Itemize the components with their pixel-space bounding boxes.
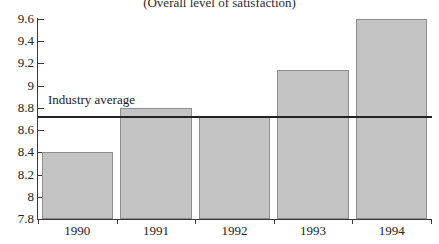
x-axis-tick-mark <box>117 219 118 224</box>
y-axis-tick-label: 8.8 <box>18 101 34 114</box>
x-axis-tick-mark <box>352 219 353 224</box>
bar <box>356 19 428 219</box>
x-axis-tick-label: 1992 <box>195 224 274 238</box>
industry-average-label: Industry average <box>48 93 135 107</box>
bar <box>199 117 271 219</box>
bar-chart: (Overall level of satisfaction) 9.69.49.… <box>0 0 439 244</box>
industry-average-line <box>38 116 432 118</box>
x-axis-line <box>37 219 432 220</box>
x-axis-tick-mark <box>431 219 432 224</box>
bar <box>42 152 114 219</box>
y-axis-tick-label: 8.6 <box>18 123 34 136</box>
y-axis-tick-label: 9.2 <box>18 56 34 69</box>
bar-series <box>38 19 431 219</box>
bar <box>277 70 349 219</box>
x-axis-tick-label: 1993 <box>274 224 353 238</box>
y-axis-tick-label: 7.8 <box>18 212 34 225</box>
y-axis-tick-label: 9 <box>28 79 35 92</box>
x-axis-tick-label: 1994 <box>352 224 431 238</box>
x-axis-tick-mark <box>195 219 196 224</box>
y-axis-tick-label: 9.4 <box>18 34 34 47</box>
bar <box>120 108 192 219</box>
x-axis-tick-mark <box>274 219 275 224</box>
y-axis-tick-label: 9.6 <box>18 12 34 25</box>
chart-title: (Overall level of satisfaction) <box>0 0 439 10</box>
x-axis-tick-label: 1990 <box>38 224 117 238</box>
y-axis-tick-label: 8 <box>28 190 35 203</box>
y-axis-tick-label: 8.2 <box>18 168 34 181</box>
x-axis-tick-mark <box>38 219 39 224</box>
x-axis-tick-label: 1991 <box>117 224 196 238</box>
y-axis-tick-label: 8.4 <box>18 145 34 158</box>
y-axis-tick-labels: 9.69.49.298.88.68.48.287.8 <box>0 0 34 244</box>
